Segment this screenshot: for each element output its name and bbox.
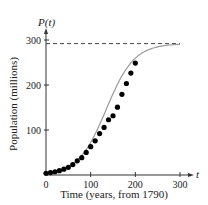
x-tick-label: 0	[44, 179, 49, 190]
x-axis-symbol: t	[196, 168, 200, 180]
x-axis-label: Time (years, from 1790)	[60, 188, 168, 201]
y-tick-label: 100	[26, 125, 41, 136]
x-tick-label: 300	[173, 179, 188, 190]
data-point	[70, 162, 75, 167]
logistic-curve	[46, 44, 180, 173]
data-point	[84, 150, 89, 155]
data-point	[110, 113, 115, 118]
data-point	[75, 158, 80, 163]
data-point	[93, 138, 98, 143]
y-tick-label: 200	[26, 80, 41, 91]
data-point	[119, 92, 124, 97]
data-point	[124, 81, 129, 86]
data-point	[115, 105, 120, 110]
data-points	[43, 60, 138, 175]
data-point	[101, 125, 106, 130]
data-point	[133, 60, 138, 65]
data-point	[43, 171, 48, 176]
data-point	[48, 170, 53, 175]
data-point	[128, 70, 133, 75]
data-point	[97, 131, 102, 136]
y-axis-label: Population (millions)	[7, 57, 20, 151]
y-axis-symbol: P(t)	[37, 16, 55, 29]
data-point	[106, 117, 111, 122]
data-point	[52, 169, 57, 174]
data-point	[61, 167, 66, 172]
axes	[44, 28, 194, 177]
data-point	[88, 144, 93, 149]
population-chart: 100200300 0100200300 P(t) t Time (years,…	[0, 0, 208, 205]
data-point	[57, 168, 62, 173]
data-point	[66, 165, 71, 170]
data-point	[79, 155, 84, 160]
y-tick-label: 300	[26, 35, 41, 46]
